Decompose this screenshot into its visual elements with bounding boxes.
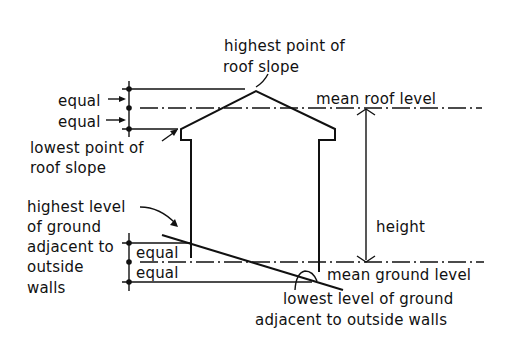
label-highest-ground-2: of ground — [27, 218, 101, 236]
label-mean-ground-level: mean ground level — [327, 266, 471, 284]
label-lowest-ground-2: adjacent to outside walls — [255, 311, 447, 329]
label-highest-ground-1: highest level — [27, 198, 126, 216]
diagram-canvas: highest point of roof slope mean roof le… — [0, 0, 511, 348]
label-lowest-point-1: lowest point of — [30, 139, 144, 157]
house-outline — [181, 91, 335, 272]
roof-dimension — [106, 81, 245, 141]
label-highest-ground-3: adjacent to — [27, 238, 114, 256]
label-equal-bottom-1: equal — [136, 244, 179, 262]
label-equal-top-1: equal — [58, 92, 101, 110]
label-height: height — [376, 218, 425, 236]
label-lowest-point-2: roof slope — [30, 159, 106, 177]
label-highest-point-1: highest point of — [224, 37, 346, 55]
label-lowest-ground-1: lowest level of ground — [283, 290, 453, 308]
label-highest-ground-5: walls — [27, 279, 66, 297]
label-mean-roof-level: mean roof level — [316, 90, 436, 108]
label-equal-bottom-2: equal — [136, 264, 179, 282]
label-highest-point-2: roof slope — [223, 58, 299, 76]
height-arrow — [357, 109, 375, 262]
label-equal-top-2: equal — [58, 113, 101, 131]
label-highest-ground-4: outside — [27, 258, 84, 276]
